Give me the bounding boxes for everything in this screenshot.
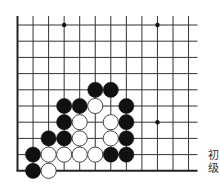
black-stone (119, 147, 134, 162)
star-point-icon (155, 23, 159, 27)
black-stone (72, 98, 87, 113)
star-point-icon (62, 23, 66, 27)
star-point-icon (155, 120, 159, 124)
black-stone (57, 98, 72, 113)
black-stone (88, 82, 103, 97)
black-stone (103, 82, 118, 97)
difficulty-label-char-1: 初 (206, 149, 220, 162)
white-stone (88, 147, 103, 162)
white-stone (57, 147, 72, 162)
white-stone (103, 115, 118, 130)
difficulty-label: 初 级 (206, 149, 220, 175)
white-stone (41, 147, 56, 162)
white-stone (72, 115, 87, 130)
white-stone (88, 98, 103, 113)
black-stone (57, 115, 72, 130)
black-stone (119, 131, 134, 146)
black-stone (57, 131, 72, 146)
black-stone (103, 147, 118, 162)
black-stone (25, 147, 40, 162)
white-stone (103, 131, 118, 146)
white-stone (72, 131, 87, 146)
black-stone (25, 163, 40, 178)
go-board-diagram (0, 0, 220, 188)
white-stone (41, 163, 56, 178)
white-stone (72, 147, 87, 162)
black-stone (119, 115, 134, 130)
black-stone (119, 98, 134, 113)
black-stone (41, 131, 56, 146)
difficulty-label-char-2: 级 (206, 162, 220, 175)
